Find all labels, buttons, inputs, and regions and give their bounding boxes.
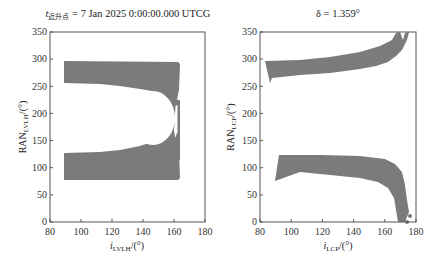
right-x-axis-label: iLCP/(°) [323, 240, 352, 253]
svg-text:50: 50 [247, 189, 257, 200]
svg-text:180: 180 [409, 226, 424, 237]
svg-text:300: 300 [242, 53, 257, 64]
svg-text:100: 100 [74, 226, 89, 237]
svg-text:300: 300 [32, 53, 47, 64]
right-upper-band [265, 32, 409, 83]
left-x-tick-labels: 80 100 120 140 160 180 [45, 226, 213, 237]
svg-text:160: 160 [167, 226, 182, 237]
right-y-tick-labels: 0 50 100 150 200 250 300 350 [242, 26, 257, 227]
right-y-axis-label: RANLCP/(°) [225, 103, 238, 150]
svg-text:150: 150 [242, 135, 257, 146]
svg-text:350: 350 [32, 26, 47, 37]
svg-text:80: 80 [255, 226, 265, 237]
right-x-tick-labels: 80 100 120 140 160 180 [255, 226, 424, 237]
svg-text:100: 100 [32, 162, 47, 173]
right-lower-band [275, 155, 409, 222]
svg-text:150: 150 [32, 135, 47, 146]
svg-text:350: 350 [242, 26, 257, 37]
svg-text:180: 180 [198, 226, 213, 237]
svg-text:80: 80 [45, 226, 55, 237]
svg-text:250: 250 [242, 81, 257, 92]
left-x-axis-label: iLVLH/(°) [110, 240, 144, 253]
svg-text:140: 140 [136, 226, 151, 237]
svg-text:100: 100 [284, 226, 299, 237]
right-plot: δ = 1.359° 0 50 100 [225, 8, 424, 253]
right-plot-title: δ = 1.359° [316, 8, 360, 19]
left-y-axis-label: RANLVLH/(°) [17, 101, 30, 154]
right-data-regions [265, 32, 412, 224]
left-data-regions [50, 61, 180, 180]
left-plot: t近升点 = 7 Jan 2025 0:00:00.000 UTCG [17, 8, 213, 253]
svg-text:100: 100 [242, 162, 257, 173]
svg-text:50: 50 [37, 189, 47, 200]
svg-text:200: 200 [242, 108, 257, 119]
left-plot-title: t近升点 = 7 Jan 2025 0:00:00.000 UTCG [46, 8, 211, 21]
figure: t近升点 = 7 Jan 2025 0:00:00.000 UTCG [0, 0, 436, 264]
svg-text:120: 120 [315, 226, 330, 237]
left-y-tick-labels: 0 50 100 150 200 250 300 350 [32, 26, 47, 227]
svg-text:250: 250 [32, 81, 47, 92]
svg-text:120: 120 [105, 226, 120, 237]
svg-text:140: 140 [346, 226, 361, 237]
svg-text:160: 160 [377, 226, 392, 237]
svg-text:200: 200 [32, 108, 47, 119]
